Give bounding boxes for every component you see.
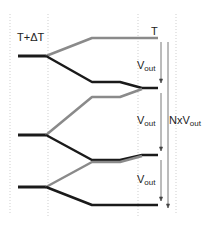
total-arrow-head [167,204,170,208]
thermopile-diagram: T+ΔT T Vout Vout Vout NxVout [0,0,209,226]
gray-conductor-2 [46,89,142,135]
vout-label-3: Vout [137,173,156,187]
total-vout-label: NxVout [169,114,202,128]
arrow-head-2 [160,147,163,151]
label-cold-temp: T [151,25,158,37]
vout-arrows [160,42,170,208]
gray-conductor-1 [46,38,158,56]
vout-label-2: Vout [137,114,156,128]
vout-label-1: Vout [137,59,156,73]
arrow-head-1 [160,79,163,83]
arrow-head-3 [160,197,163,201]
label-hot-temp: T+ΔT [17,31,44,43]
dark-conductor-3 [46,187,158,205]
